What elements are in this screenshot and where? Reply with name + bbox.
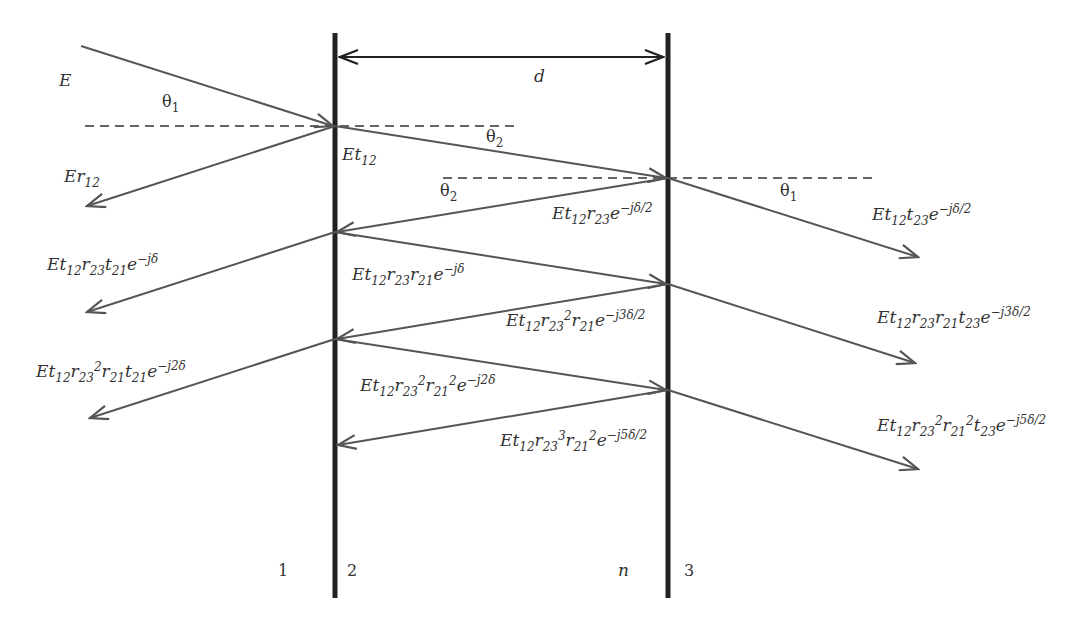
- reflected-label-1: Et12r23t21e−jδ: [46, 252, 158, 278]
- internal-label-3: Et12r232r21e−j3δ/2: [505, 308, 645, 334]
- internal-ray-1: [335, 126, 666, 178]
- thickness-label: d: [534, 66, 545, 86]
- angle-theta2-top: θ2: [486, 127, 503, 150]
- transmitted-label-3: Et12r232r212t23e−j5δ/2: [876, 413, 1046, 439]
- angle-theta1-transmitted: θ1: [780, 181, 797, 204]
- incident-label: E: [58, 70, 72, 90]
- internal-label-1: Et12r23e−jδ/2: [551, 201, 653, 227]
- reflected-ray-0: [87, 126, 335, 206]
- film-index-label: n: [618, 560, 629, 580]
- internal-label-5: Et12r233r212e−j5δ/2: [499, 428, 647, 454]
- angle-theta1-incident: θ1: [162, 92, 179, 115]
- region-label-1: 1: [278, 561, 288, 580]
- region-label-3: 3: [684, 561, 694, 580]
- internal-label-0: Et12: [341, 144, 377, 168]
- thin-film-diagram: E d θ1 θ2 θ2 θ1 Er12 Et12r23t21e−jδ Et12…: [0, 0, 1088, 627]
- reflected-label-0: Er12: [63, 166, 100, 190]
- transmitted-label-2: Et12r23r21t23e−j3δ/2: [876, 305, 1031, 331]
- internal-label-2: Et12r23r21e−jδ: [351, 262, 464, 288]
- incident-ray: [81, 46, 333, 126]
- region-label-2: 2: [347, 561, 357, 580]
- internal-ray-5: [335, 339, 666, 390]
- reflected-label-2: Et12r232r21t21e−j2δ: [35, 359, 186, 385]
- angle-theta2-second: θ2: [440, 181, 457, 204]
- transmitted-label-1: Et12t23e−jδ/2: [871, 202, 971, 228]
- internal-label-4: Et12r232r212e−j2δ: [359, 373, 495, 399]
